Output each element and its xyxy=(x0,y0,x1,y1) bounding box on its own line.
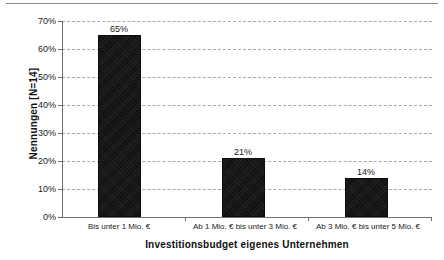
bar-value-label: 14% xyxy=(357,167,375,177)
y-tick-label: 10% xyxy=(4,184,56,194)
x-tick-mark xyxy=(185,217,186,221)
bar-value-label: 21% xyxy=(234,147,252,157)
bar-chart-figure: Nennungen [N=14] 70% 60% 50% 40% 30% 20%… xyxy=(0,0,444,260)
x-tick-mark xyxy=(308,217,309,221)
x-category-label-3: Ab 3 Mio. € bis unter 5 Mio. € xyxy=(316,222,420,231)
y-tick-label: 70% xyxy=(4,16,56,26)
x-tick-mark xyxy=(431,217,432,221)
y-tick-label: 60% xyxy=(4,44,56,54)
x-axis-line xyxy=(62,217,432,218)
y-tick-label: 30% xyxy=(4,128,56,138)
y-tick-label: 20% xyxy=(4,156,56,166)
x-category-label-2: Ab 1 Mio. € bis unter 3 Mio. € xyxy=(193,222,297,231)
y-axis-line xyxy=(62,21,63,218)
x-axis-title: Investitionsbudget eigenes Unternehmen xyxy=(62,239,432,250)
x-category-label-1: Bis unter 1 Mio. € xyxy=(88,222,150,231)
plot-area: 65% 21% 14% xyxy=(62,21,432,217)
y-tick-label: 0% xyxy=(4,212,56,222)
y-tick-label: 50% xyxy=(4,72,56,82)
y-axis-tick-labels: 70% 60% 50% 40% 30% 20% 10% 0% xyxy=(0,21,56,218)
bar-value-labels: 65% 21% 14% xyxy=(62,21,432,217)
bar-value-label: 65% xyxy=(110,24,128,34)
top-divider-rule xyxy=(6,3,438,4)
y-tick-label: 40% xyxy=(4,100,56,110)
